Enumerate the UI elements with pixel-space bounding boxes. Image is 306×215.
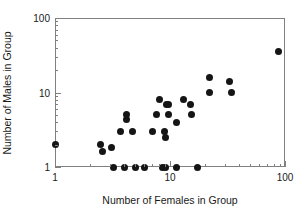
x-tick-minor: [90, 164, 91, 167]
data-point: [173, 119, 180, 126]
data-point: [206, 74, 213, 81]
data-point: [97, 141, 104, 148]
plot-area: [55, 18, 285, 167]
y-tick-minor: [55, 115, 58, 116]
data-point: [206, 89, 213, 96]
x-tick-minor: [124, 164, 125, 167]
data-point: [108, 144, 115, 151]
data-point: [275, 48, 282, 55]
data-point: [153, 111, 160, 118]
data-point: [226, 78, 233, 85]
y-tick-label: 10: [20, 87, 50, 98]
x-tick-minor: [250, 164, 251, 167]
data-point: [129, 128, 136, 135]
y-tick-minor: [55, 70, 58, 71]
x-tick-major: [170, 161, 171, 167]
x-axis-title: Number of Females in Group: [55, 194, 285, 206]
data-point: [228, 89, 235, 96]
data-point: [165, 111, 172, 118]
y-tick-minor: [55, 40, 58, 41]
x-tick-minor: [144, 164, 145, 167]
y-tick-major: [55, 93, 61, 94]
y-axis-title-text: Number of Males in Group: [1, 31, 13, 154]
data-point: [162, 134, 169, 141]
data-point: [165, 101, 172, 108]
x-tick-minor: [274, 164, 275, 167]
data-point: [123, 116, 130, 123]
y-tick-major: [55, 167, 61, 168]
y-tick-minor: [55, 122, 58, 123]
data-point: [180, 96, 187, 103]
x-tick-minor: [135, 164, 136, 167]
y-axis-title: Number of Males in Group: [0, 18, 14, 167]
x-tick-label: 10: [164, 172, 175, 183]
scatter-plot-figure: 110100 110100 Number of Females in Group…: [0, 0, 306, 215]
x-tick-minor: [152, 164, 153, 167]
data-point: [117, 128, 124, 135]
x-tick-minor: [259, 164, 260, 167]
y-tick-label: 1: [20, 162, 50, 173]
y-tick-minor: [55, 35, 58, 36]
x-tick-minor: [267, 164, 268, 167]
data-point: [194, 164, 201, 171]
data-point: [162, 164, 169, 171]
y-tick-minor: [55, 48, 58, 49]
data-point: [99, 148, 106, 155]
y-tick-minor: [55, 104, 58, 105]
data-point: [188, 111, 195, 118]
y-tick-minor: [55, 57, 58, 58]
x-tick-minor: [165, 164, 166, 167]
y-tick-minor: [55, 109, 58, 110]
y-tick-label: 100: [20, 13, 50, 24]
data-point: [187, 101, 194, 108]
y-tick-minor: [55, 145, 58, 146]
data-point: [156, 96, 163, 103]
data-point: [149, 128, 156, 135]
x-tick-minor: [110, 164, 111, 167]
y-tick-minor: [55, 21, 58, 22]
x-tick-minor: [205, 164, 206, 167]
x-tick-minor: [239, 164, 240, 167]
x-tick-minor: [159, 164, 160, 167]
y-tick-minor: [55, 25, 58, 26]
y-tick-minor: [55, 96, 58, 97]
y-tick-minor: [55, 131, 58, 132]
y-tick-minor: [55, 30, 58, 31]
data-point: [173, 164, 180, 171]
x-tick-minor: [225, 164, 226, 167]
y-tick-minor: [55, 100, 58, 101]
x-tick-minor: [280, 164, 281, 167]
x-tick-label: 1: [52, 172, 58, 183]
x-tick-major: [285, 161, 286, 167]
x-tick-label: 100: [277, 172, 294, 183]
y-tick-major: [55, 18, 61, 19]
